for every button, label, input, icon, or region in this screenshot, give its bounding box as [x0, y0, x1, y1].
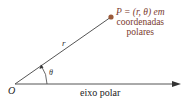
point-label: P = (r, θ) em coordenadas polares — [116, 7, 165, 37]
angle-arc — [41, 66, 47, 84]
angle-label: θ — [49, 68, 53, 77]
radius-line — [15, 17, 111, 84]
point-label-line2: coordenadas — [116, 17, 165, 27]
point-label-line3: polares — [116, 27, 165, 37]
point-p — [108, 14, 113, 19]
point-label-line1: P = (r, θ) em — [116, 7, 165, 17]
axis-arrowhead-icon — [172, 81, 181, 87]
origin-label: O — [8, 85, 15, 96]
radius-label: r — [62, 38, 66, 48]
axis-label: eixo polar — [80, 87, 120, 98]
